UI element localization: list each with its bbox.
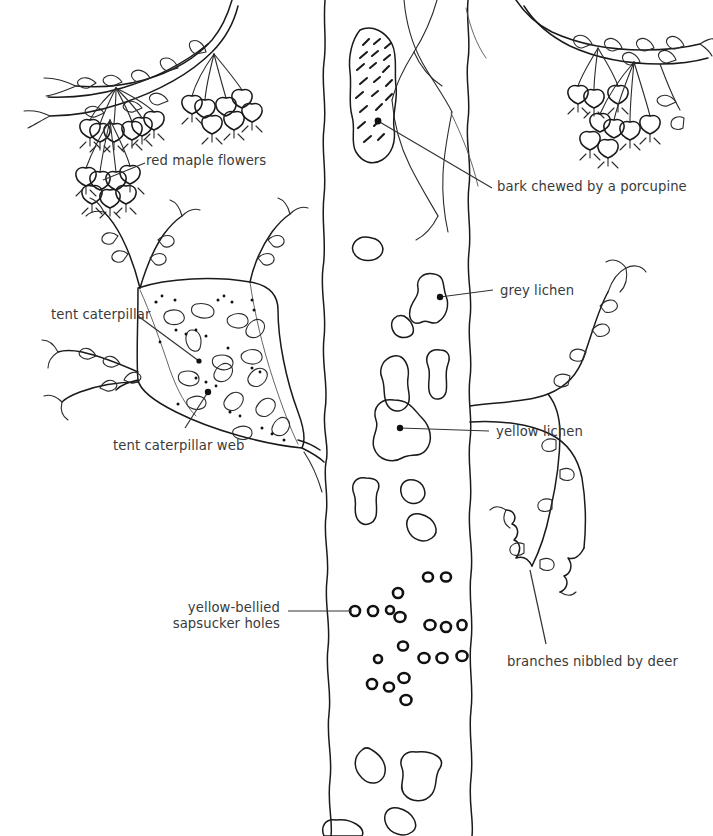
leader-web	[185, 392, 208, 428]
leader-caterpillar	[138, 316, 199, 361]
label-red-maple-flowers: red maple flowers	[146, 153, 266, 169]
flower-cluster-a	[80, 88, 164, 152]
flower-cluster-e	[580, 62, 660, 168]
label-yellow-lichen: yellow lichen	[496, 424, 583, 440]
web-specks	[154, 295, 285, 442]
leader-deer	[530, 570, 546, 644]
flower-cluster-d	[568, 48, 628, 118]
flower-cluster-b	[76, 120, 144, 218]
web-branch-to-trunk	[298, 440, 324, 492]
lichen-patch	[427, 350, 449, 399]
lichen-patch	[385, 808, 416, 835]
top-right-flower-branch	[516, 0, 713, 168]
dot-caterpillar	[196, 358, 201, 363]
label-grey-lichen: grey lichen	[500, 283, 574, 299]
lichen-patch	[323, 820, 363, 836]
lichen-patch	[353, 237, 383, 261]
label-bark-chewed-porcupine: bark chewed by a porcupine	[497, 179, 687, 195]
dot-grey	[437, 294, 443, 300]
lichen-patch	[353, 478, 379, 525]
sapsucker-holes	[350, 573, 468, 706]
porcupine-bark-scar	[349, 28, 396, 163]
lichen-patch	[407, 514, 436, 541]
illustration-canvas: red maple flowers bark chewed by a porcu…	[0, 0, 713, 836]
lichen-patch	[401, 752, 441, 801]
leader-porcupine	[378, 121, 492, 188]
trunk-branch-forks	[392, 0, 486, 240]
label-branches-nibbled-deer: branches nibbled by deer	[507, 654, 678, 670]
dot-yellow	[397, 425, 403, 431]
tree-illustration	[0, 0, 713, 836]
red-maple-flower-branch	[24, 0, 262, 218]
dot-web	[205, 389, 211, 395]
label-tent-caterpillar-web: tent caterpillar web	[113, 438, 244, 454]
leader-lines	[103, 121, 546, 644]
lichen-patches	[323, 237, 449, 836]
label-sapsucker-holes: yellow-belliedsapsucker holes	[90, 600, 280, 631]
tent-caterpillar-web	[42, 198, 308, 448]
lichen-patch	[401, 480, 425, 504]
label-tent-caterpillar: tent caterpillar	[51, 307, 151, 323]
leader-yellow	[400, 428, 489, 431]
lichen-patch	[355, 748, 385, 783]
dot-porcupine	[375, 118, 382, 125]
leader-grey	[440, 290, 493, 297]
